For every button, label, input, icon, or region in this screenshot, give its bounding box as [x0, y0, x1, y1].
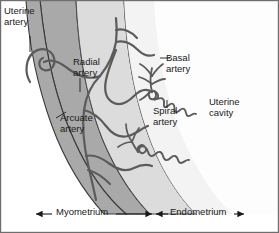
label-myometrium: Myometrium	[56, 207, 108, 218]
label-radial-artery: Radial artery	[73, 57, 100, 78]
label-arcuate-artery-line1: Arcuate	[60, 113, 93, 124]
label-arcuate-artery: Arcuate artery	[60, 113, 93, 134]
label-uterine-cavity-line2: cavity	[209, 108, 240, 119]
label-spiral-artery: Spiral artery	[153, 106, 177, 127]
label-basal-artery-line2: artery	[166, 64, 190, 75]
label-basal-artery: Basal artery	[166, 53, 190, 74]
label-endometrium: Endometrium	[170, 207, 227, 218]
label-uterine-cavity: Uterine cavity	[209, 97, 240, 118]
label-spiral-artery-line1: Spiral	[153, 106, 177, 117]
label-uterine-artery-line1: Uterine	[4, 6, 35, 17]
label-uterine-cavity-line1: Uterine	[209, 97, 240, 108]
label-spiral-artery-line2: artery	[153, 117, 177, 128]
label-uterine-artery: Uterine artery	[4, 6, 35, 27]
label-basal-artery-line1: Basal	[166, 53, 190, 64]
uterine-blood-supply-diagram: Uterine artery Radial artery Arcuate art…	[0, 0, 279, 233]
label-radial-artery-line1: Radial	[73, 57, 100, 68]
label-uterine-artery-line2: artery	[4, 17, 35, 28]
label-arcuate-artery-line2: artery	[60, 124, 93, 135]
label-radial-artery-line2: artery	[73, 68, 100, 79]
